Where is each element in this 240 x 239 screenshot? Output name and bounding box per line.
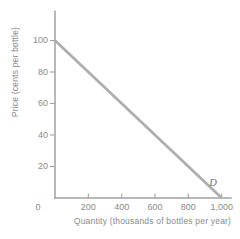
demand-curve-figure: Price (cents per bottle) Quantity (thous… — [0, 0, 240, 239]
y-tick-label: 100 — [22, 35, 48, 45]
x-tick-label: 200 — [71, 202, 105, 212]
y-tick-label: 40 — [22, 130, 48, 140]
y-tick-label: 80 — [22, 67, 48, 77]
x-tick-label: 400 — [105, 202, 139, 212]
y-axis-title: Price (cents per bottle) — [10, 27, 20, 117]
origin-tick-label: 0 — [30, 202, 46, 212]
x-tick-label: 600 — [138, 202, 172, 212]
x-axis-title: Quantity (thousands of bottles per year) — [65, 216, 240, 226]
demand-curve-label: D — [209, 177, 217, 188]
y-tick-label: 20 — [22, 161, 48, 171]
x-tick-label: 800 — [171, 202, 205, 212]
demand-curve-line — [55, 41, 222, 199]
y-tick-label: 60 — [22, 98, 48, 108]
x-tick-label: 1,000 — [205, 202, 239, 212]
